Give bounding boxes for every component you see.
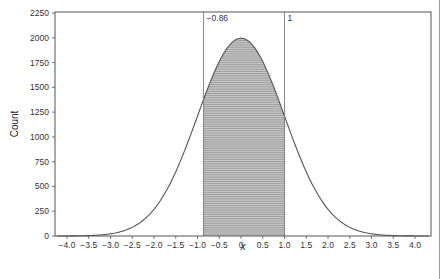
x-tick-label: −0.5: [211, 240, 228, 250]
x-tick-label: 4.0: [409, 240, 421, 250]
x-axis-title: x: [240, 241, 247, 252]
y-tick-label: 1000: [30, 132, 49, 142]
x-tick-label: −3.0: [102, 240, 119, 250]
x-tick-label: −3.5: [80, 240, 97, 250]
y-tick-label: 0: [44, 231, 49, 241]
y-tick-label: 1750: [30, 58, 49, 68]
annotation-label: −0.86: [207, 13, 229, 23]
y-tick-label: 1500: [30, 82, 49, 92]
y-axis: 0250500750100012501500175020002250: [30, 8, 55, 241]
x-tick-label: 2.5: [344, 240, 356, 250]
x-tick-label: 3.5: [387, 240, 399, 250]
x-tick-label: 3.0: [366, 240, 378, 250]
y-tick-label: 750: [35, 157, 49, 167]
y-tick-label: 500: [35, 181, 49, 191]
shaded-region: [204, 12, 285, 236]
x-tick-label: −2.0: [146, 240, 163, 250]
y-tick-label: 250: [35, 206, 49, 216]
x-tick-label: 1.0: [279, 240, 291, 250]
x-tick-label: 1.5: [300, 240, 312, 250]
y-axis-title: Count: [9, 110, 20, 137]
y-tick-label: 2250: [30, 8, 49, 18]
x-tick-label: −1.0: [189, 240, 206, 250]
x-tick-label: 2.0: [322, 240, 334, 250]
x-tick-label: −1.5: [167, 240, 184, 250]
page-edge-divider: [439, 0, 440, 279]
x-tick-label: 0.5: [257, 240, 269, 250]
annotation-label: 1: [288, 13, 293, 23]
y-tick-label: 2000: [30, 33, 49, 43]
x-tick-label: −4.0: [59, 240, 76, 250]
y-tick-label: 1250: [30, 107, 49, 117]
chart: −0.861 −4.0−3.5−3.0−2.5−2.0−1.5−1.0−0.50…: [0, 0, 443, 279]
x-tick-label: −2.5: [124, 240, 141, 250]
